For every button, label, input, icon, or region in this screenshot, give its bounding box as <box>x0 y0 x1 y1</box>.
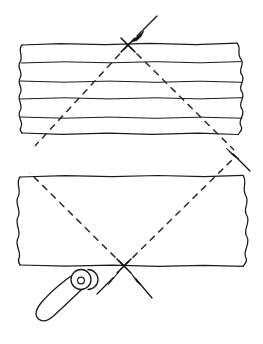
upper-strip-layer-line-4 <box>20 117 242 118</box>
lower-strip-bottom-edge <box>20 265 243 266</box>
arrow-right-between-strips <box>226 148 250 171</box>
roller-tool <box>36 270 98 321</box>
upper-strip-left-torn-edge <box>19 45 22 133</box>
arrow-bottom-left <box>97 272 119 294</box>
lower-strip-top-edge <box>20 175 243 177</box>
figure-canvas: Aligning two workpiece strips with a sea… <box>0 0 263 344</box>
registration-marks <box>117 38 135 273</box>
upper-strip-right-torn-edge <box>237 43 243 134</box>
dashed-guide-line-b-upper <box>35 45 128 146</box>
dashed-guide-line-b <box>30 173 124 266</box>
technical-illustration: Aligning two workpiece strips with a sea… <box>0 0 263 344</box>
upper-strip-layer-line-2 <box>20 81 242 82</box>
upper-strip-layer-line-1 <box>21 62 241 63</box>
upper-strip-bottom-edge <box>22 133 238 135</box>
arrow-bottom-right <box>131 273 152 298</box>
dashed-guide-lines <box>30 45 234 266</box>
lower-strip <box>17 175 248 266</box>
lower-strip-right-torn-edge <box>243 175 248 266</box>
upper-strip-layer-line-3 <box>20 98 242 99</box>
upper-strip <box>19 43 243 134</box>
lower-strip-left-torn-edge <box>17 177 20 265</box>
roller-wheel-hub <box>78 277 85 284</box>
